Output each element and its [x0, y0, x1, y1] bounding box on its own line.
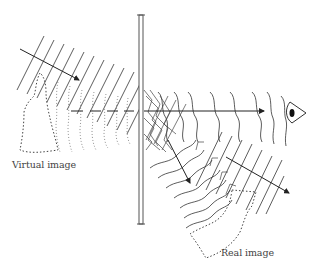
- eye-icon: [286, 102, 306, 123]
- diverging-arrow-1: [168, 140, 190, 183]
- real-image-wavefronts: [150, 140, 232, 228]
- hologram-diagram: [0, 0, 322, 276]
- transmitted-wavefronts: [158, 92, 287, 146]
- virtual-image-ghosts: [56, 82, 130, 152]
- hologram-plate: [137, 15, 145, 224]
- interference-region: [144, 90, 186, 152]
- real-image-label: Real image: [221, 247, 274, 258]
- virtual-image-label: Virtual image: [12, 159, 76, 170]
- conjugate-wavefronts: [196, 132, 284, 214]
- diverging-arrow-2: [226, 157, 289, 193]
- virtual-image-outline: [20, 73, 58, 152]
- incident-wavefronts: [17, 36, 140, 134]
- incident-arrow: [20, 49, 79, 80]
